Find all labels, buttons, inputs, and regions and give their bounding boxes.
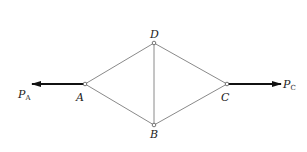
node-D-icon [152,41,156,45]
force-label-PA: PA [17,88,31,102]
node-label-B: B [149,128,158,141]
node-label-D: D [149,28,159,41]
nodes [83,41,229,127]
force-label-PC: PC [282,78,296,92]
node-label-A: A [75,91,84,104]
member-BC [154,84,227,125]
member-AD [85,43,154,84]
node-A-icon [83,82,87,86]
truss-diagram: A D B C PA PC [0,0,307,152]
truss-members [85,43,227,125]
node-C-icon [225,82,229,86]
node-label-C: C [221,91,230,104]
member-AB [85,84,154,125]
member-DC [154,43,227,84]
node-B-icon [152,123,156,127]
